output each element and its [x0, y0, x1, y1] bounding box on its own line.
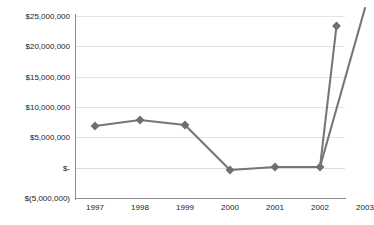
y-tick-label-3: $10,000,000	[26, 103, 71, 112]
x-tick-label-2002: 2002	[311, 203, 329, 212]
series-markers-overflow	[76, 16, 345, 198]
y-tick-label-4: $5,000,000	[30, 133, 70, 142]
y-tick-label-2: $15,000,000	[26, 73, 71, 82]
x-tick-label-2001: 2001	[266, 203, 284, 212]
x-axis-labels: 1997 1998 1999 2000 2001 2002 2003	[76, 200, 345, 222]
y-tick-label-5: $-	[63, 164, 70, 173]
y-tick-label-6: $(5,000,000)	[25, 194, 70, 203]
y-tick-label-0: $25,000,000	[26, 12, 71, 21]
y-axis-labels: $25,000,000 $20,000,000 $15,000,000 $10,…	[0, 16, 76, 198]
x-tick-label-2000: 2000	[221, 203, 239, 212]
x-tick-label-1998: 1998	[131, 203, 149, 212]
x-tick-label-1999: 1999	[176, 203, 194, 212]
y-tick-label-1: $20,000,000	[26, 42, 71, 51]
x-axis-line	[75, 198, 346, 199]
series-line-2003	[320, 26, 337, 167]
x-tick-label-2003: 2003	[356, 203, 374, 212]
x-tick-label-1997: 1997	[86, 203, 104, 212]
